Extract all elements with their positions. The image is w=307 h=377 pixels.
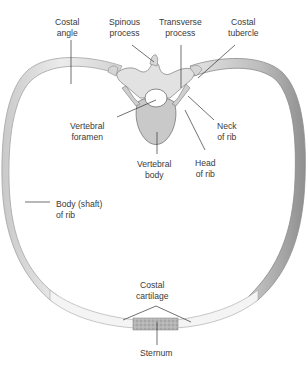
right-costal-cartilage [176,290,258,328]
leader-spinous-process [132,45,154,62]
label-body-shaft-of-rib: Body (shaft) of rib [56,199,102,220]
label-vertebral-body: Vertebral body [137,159,171,180]
label-costal-tubercle: Costal tubercle [228,17,259,38]
leader-neck-of-rib [188,96,214,120]
label-costal-angle: Costal angle [55,17,79,38]
label-sternum: Sternum [140,348,172,359]
label-costal-cartilage: Costal cartilage [136,280,168,301]
label-vertebral-foramen: Vertebral foramen [70,121,104,142]
label-neck-of-rib: Neck of rib [217,121,237,142]
sternum-shape [133,318,178,330]
left-rib [2,58,122,306]
left-costal-cartilage [50,290,136,328]
label-transverse-process: Transverse process [159,17,202,38]
right-rib [190,58,305,305]
vertebral-foramen-shape [145,89,167,107]
label-spinous-process: Spinous process [109,17,140,38]
rib-cage-diagram [0,0,307,377]
label-head-of-rib: Head of rib [195,158,216,179]
leader-head-of-rib [185,110,205,150]
thoracic-vertebra [108,55,202,145]
